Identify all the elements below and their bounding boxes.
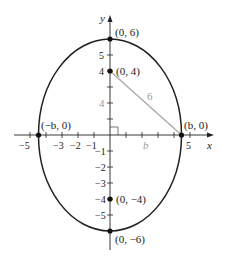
point-left-covertex <box>36 132 41 137</box>
y-axis-arrow-icon <box>108 15 113 22</box>
y-tick-label: −2 <box>95 162 106 173</box>
y-tick-label: −4 <box>95 194 106 205</box>
y-tick-label: −3 <box>95 178 106 189</box>
point-label-bottom-focus: (0, −4) <box>116 193 146 206</box>
right-angle-marker <box>110 127 118 135</box>
horizontal-leg-label: b <box>143 139 149 151</box>
x-tick-label: −3 <box>53 140 64 151</box>
y-axis-label: y <box>99 12 105 24</box>
y-axis <box>107 15 113 250</box>
y-tick-label: 5 <box>99 50 104 61</box>
point-top-vertex <box>107 36 112 41</box>
x-tick-label: −2 <box>70 140 81 151</box>
point-bottom-vertex <box>107 228 112 233</box>
y-tick-label: 4 <box>99 66 104 77</box>
hypotenuse-label: 6 <box>147 90 153 102</box>
y-tick-label: −5 <box>95 210 106 221</box>
point-label-bottom-vertex: (0, −6) <box>115 233 145 246</box>
y-tick-label: −1 <box>95 146 106 157</box>
x-axis-label: x <box>206 139 212 151</box>
point-label-right-covertex: (b, 0) <box>184 119 208 132</box>
x-tick-label: 5 <box>186 140 191 151</box>
right-triangle <box>110 71 182 135</box>
vertical-leg-label: 4 <box>99 97 105 109</box>
hypotenuse-line <box>110 71 182 135</box>
point-label-left-covertex: (−b, 0) <box>41 119 71 132</box>
x-axis-arrow-icon <box>207 133 214 138</box>
ellipse-diagram: y x −5 −3 −2 −1 5 5 4 −1 −2 −3 −4 −5 (0,… <box>0 0 225 258</box>
x-tick-label: −5 <box>19 140 30 151</box>
point-bottom-focus <box>107 196 112 201</box>
point-top-focus <box>107 68 112 73</box>
point-right-covertex <box>179 132 184 137</box>
point-label-top-vertex: (0, 6) <box>115 26 139 39</box>
point-label-top-focus: (0, 4) <box>116 65 140 78</box>
